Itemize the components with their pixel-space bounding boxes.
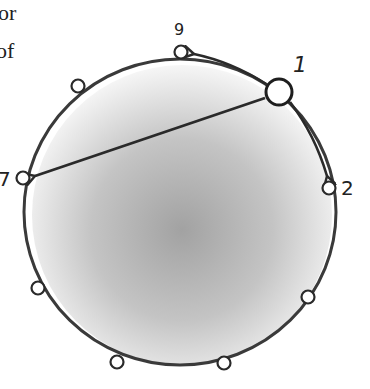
node-unlabeled-d[interactable] xyxy=(218,357,231,370)
node-7[interactable] xyxy=(17,172,30,185)
node-1[interactable] xyxy=(266,79,292,105)
ring-fill xyxy=(32,65,332,365)
node-9[interactable] xyxy=(175,46,188,59)
label-node-9: 9 xyxy=(174,20,184,39)
node-unlabeled-b[interactable] xyxy=(32,282,45,295)
node-unlabeled-e[interactable] xyxy=(302,291,315,304)
label-node-7: 7 xyxy=(0,167,11,191)
label-node-1: 1 xyxy=(293,52,307,77)
node-unlabeled-c[interactable] xyxy=(111,356,124,369)
ring-diagram: 1 9 7 2 xyxy=(0,0,370,389)
node-unlabeled-a[interactable] xyxy=(72,80,85,93)
label-node-2: 2 xyxy=(341,176,354,200)
node-2[interactable] xyxy=(323,182,336,195)
